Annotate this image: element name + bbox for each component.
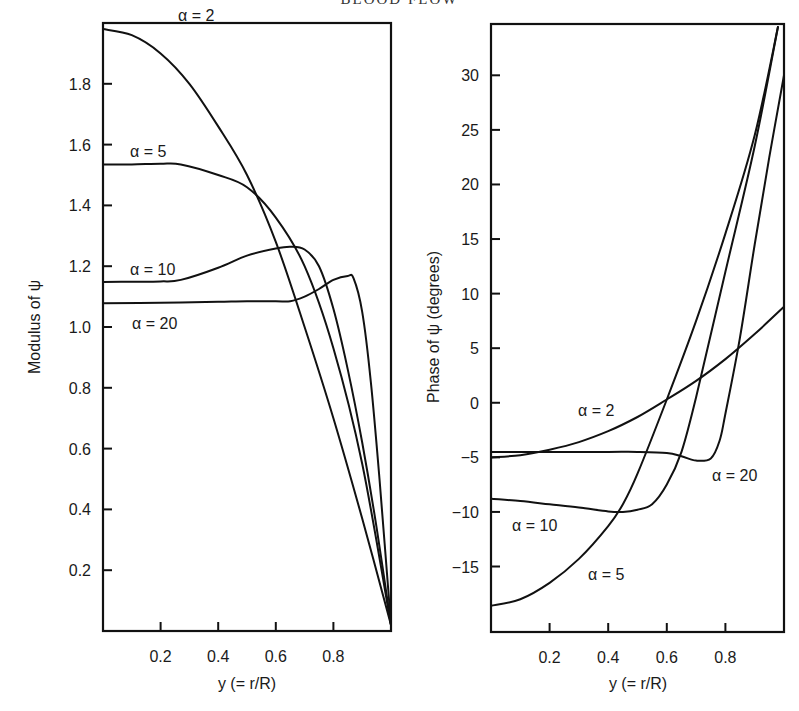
left-label-alpha-10: α = 10 bbox=[130, 261, 175, 278]
y-tick-label: 0.6 bbox=[69, 441, 91, 458]
right-x-axis: 0.20.40.60.8 bbox=[538, 623, 736, 666]
y-tick-label: 15 bbox=[461, 231, 479, 248]
modulus-chart: 0.20.40.60.81.01.21.41.61.8 0.20.40.60.8… bbox=[26, 7, 391, 692]
y-tick-label: 20 bbox=[461, 176, 479, 193]
y-tick-label: −15 bbox=[452, 559, 479, 576]
y-tick-label: 0.8 bbox=[69, 380, 91, 397]
y-tick-label: 1.2 bbox=[69, 258, 91, 275]
right-label-alpha-10: α = 10 bbox=[512, 517, 557, 534]
x-tick-label: 0.8 bbox=[322, 648, 344, 665]
right-x-axis-label: y (= r/R) bbox=[609, 675, 667, 692]
left-label-alpha-20: α = 20 bbox=[132, 315, 177, 332]
y-tick-label: 0.4 bbox=[69, 501, 91, 518]
figure: 0.20.40.60.81.01.21.41.61.8 0.20.40.60.8… bbox=[0, 0, 799, 711]
right-y-axis-label: Phase of ψ (degrees) bbox=[425, 251, 442, 403]
left-label-alpha-2: α = 2 bbox=[178, 7, 214, 24]
y-tick-label: 0.2 bbox=[69, 562, 91, 579]
y-tick-label: 0 bbox=[470, 395, 479, 412]
left-label-alpha-5: α = 5 bbox=[130, 143, 166, 160]
phase-chart: −15−10−5051015202530 0.20.40.60.8 α = 2 … bbox=[425, 24, 784, 692]
y-tick-label: 30 bbox=[461, 67, 479, 84]
right-label-alpha-5: α = 5 bbox=[588, 566, 624, 583]
left-x-axis-label: y (= r/R) bbox=[218, 675, 276, 692]
left-y-axis: 0.20.40.60.81.01.21.41.61.8 bbox=[69, 76, 112, 579]
right-plot-frame bbox=[491, 24, 784, 632]
y-tick-label: 1.4 bbox=[69, 197, 91, 214]
right-label-alpha-2: α = 2 bbox=[578, 402, 614, 419]
y-tick-label: 25 bbox=[461, 122, 479, 139]
x-tick-label: 0.4 bbox=[597, 649, 619, 666]
series-line-1 bbox=[103, 163, 391, 625]
x-tick-label: 0.4 bbox=[207, 648, 229, 665]
y-tick-label: 10 bbox=[461, 286, 479, 303]
series-line-0 bbox=[491, 307, 784, 458]
left-x-axis: 0.20.40.60.8 bbox=[149, 622, 344, 665]
y-tick-label: 1.8 bbox=[69, 76, 91, 93]
y-tick-label: −5 bbox=[461, 449, 479, 466]
x-tick-label: 0.6 bbox=[656, 649, 678, 666]
series-line-3 bbox=[491, 75, 784, 461]
x-tick-label: 0.6 bbox=[265, 648, 287, 665]
series-line-2 bbox=[491, 26, 778, 512]
y-tick-label: 5 bbox=[470, 340, 479, 357]
left-y-axis-label: Modulus of ψ bbox=[26, 280, 43, 374]
x-tick-label: 0.8 bbox=[714, 649, 736, 666]
y-tick-label: 1.6 bbox=[69, 137, 91, 154]
x-tick-label: 0.2 bbox=[538, 649, 560, 666]
x-tick-label: 0.2 bbox=[149, 648, 171, 665]
right-label-alpha-20: α = 20 bbox=[712, 467, 757, 484]
y-tick-label: 1.0 bbox=[69, 319, 91, 336]
y-tick-label: −10 bbox=[452, 504, 479, 521]
